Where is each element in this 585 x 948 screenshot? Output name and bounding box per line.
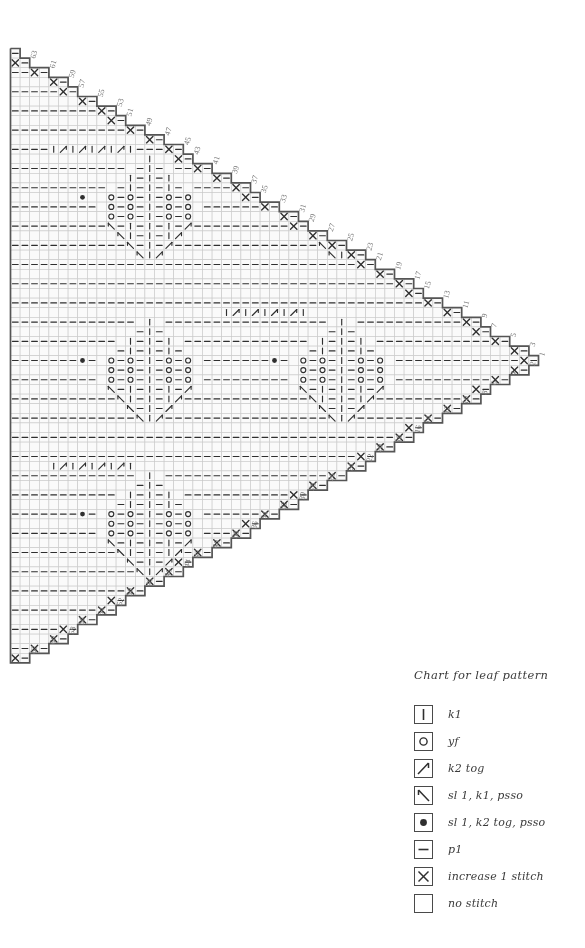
legend-label-k1: k1 [448, 708, 462, 721]
legend-label-yf: yf [448, 735, 459, 748]
horizontal-dash-icon [414, 840, 433, 859]
blank-icon [414, 894, 433, 913]
legend-item-increase: increase 1 stitch [414, 864, 584, 889]
vertical-bar-icon [414, 705, 433, 724]
legend-item-sk2p: sl 1, k2 tog, psso [414, 810, 584, 835]
legend-item-k2tog: k2 tog [414, 756, 584, 781]
legend-label-p1: p1 [448, 843, 462, 856]
diagonal-right-icon [414, 759, 433, 778]
legend-label-k2tog: k2 tog [448, 762, 484, 775]
legend-label-sk2p: sl 1, k2 tog, psso [448, 816, 545, 829]
legend-label-skp: sl 1, k1, psso [448, 789, 523, 802]
chart-legend: Chart for leaf pattern k1 yf k2 tog sl 1… [414, 668, 584, 918]
legend-item-yf: yf [414, 729, 584, 754]
legend-item-no-stitch: no stitch [414, 891, 584, 916]
filled-dot-icon [414, 813, 433, 832]
legend-title: Chart for leaf pattern [414, 668, 584, 682]
legend-label-no-stitch: no stitch [448, 897, 498, 910]
cross-icon [414, 867, 433, 886]
legend-item-p1: p1 [414, 837, 584, 862]
legend-item-skp: sl 1, k1, psso [414, 783, 584, 808]
legend-label-increase: increase 1 stitch [448, 870, 544, 883]
diagonal-left-icon [414, 786, 433, 805]
circle-icon [414, 732, 433, 751]
legend-item-k1: k1 [414, 702, 584, 727]
